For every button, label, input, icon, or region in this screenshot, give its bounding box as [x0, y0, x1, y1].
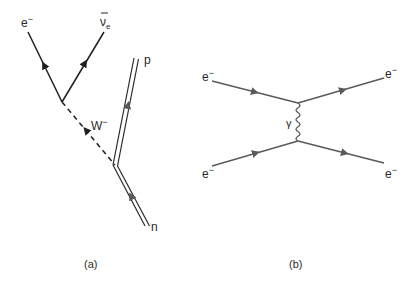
electron-line	[28, 32, 62, 102]
svg-text:νe: νe	[100, 15, 111, 31]
electron-out-top-line	[298, 78, 384, 103]
proton-line	[113, 58, 139, 166]
w-boson-label: W−	[91, 117, 108, 133]
diagram-b-electron-scattering: e− e− e− e− γ (b)	[202, 65, 397, 270]
w-boson-line	[62, 102, 115, 165]
neutron-label: n	[151, 220, 158, 234]
antineutrino-label: νe	[100, 13, 111, 31]
proton-label: p	[144, 53, 151, 67]
caption-a: (a)	[84, 258, 97, 270]
diagram-a-beta-decay: e− νe W− p n (a)	[21, 13, 158, 270]
photon-label: γ	[286, 117, 292, 129]
electron-in-top-line	[212, 81, 298, 103]
electron-label: e−	[21, 14, 33, 30]
neutron-line	[113, 165, 150, 226]
feynman-diagrams: e− νe W− p n (a)	[0, 0, 420, 285]
electron-out-bottom-label: e−	[385, 165, 397, 181]
photon-line	[296, 103, 300, 141]
electron-out-bottom-line	[298, 141, 384, 163]
electron-in-bottom-line	[212, 141, 298, 166]
electron-out-top-label: e−	[385, 65, 397, 81]
electron-in-bottom-label: e−	[202, 165, 214, 181]
caption-b: (b)	[289, 258, 302, 270]
antineutrino-line	[62, 32, 104, 102]
